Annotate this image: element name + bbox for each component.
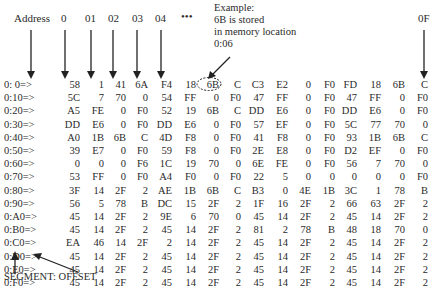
example-arrow-icon [212,57,230,75]
offset-arrow-icon [40,257,78,272]
column-arrows [11,30,428,274]
highlight-ellipse [197,78,221,91]
arrows-overlay [0,0,442,294]
